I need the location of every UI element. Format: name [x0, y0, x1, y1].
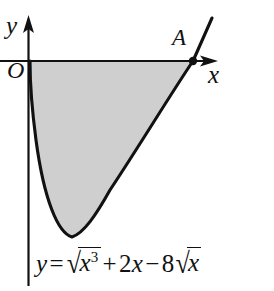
point-a-marker	[189, 57, 197, 65]
x-axis-label: x	[208, 62, 219, 87]
math-figure: y O x A y=√x3+2x−8√x	[0, 0, 274, 291]
radicand-1-variable: x	[79, 249, 90, 276]
sqrt-x-cubed: √x3	[66, 248, 101, 279]
point-a-label: A	[172, 26, 186, 49]
y-axis-label: y	[6, 13, 17, 38]
radicand-1-exponent: 3	[91, 249, 99, 265]
sqrt-x: √x	[174, 248, 201, 279]
radicand-2: x	[187, 247, 201, 277]
origin-label: O	[7, 58, 24, 82]
equation-equals: =	[47, 250, 65, 277]
curve-equation: y=√x3+2x−8√x	[36, 248, 201, 279]
term3-coefficient: 8	[162, 250, 175, 277]
equation-lhs: y	[36, 250, 47, 277]
radicand-1: x3	[78, 247, 100, 277]
equation-plus: +	[101, 250, 119, 277]
equation-minus: −	[143, 250, 161, 277]
shaded-region	[30, 61, 193, 237]
term2-coefficient: 2	[119, 250, 132, 277]
term2-variable: x	[132, 250, 143, 277]
radicand-2-variable: x	[188, 249, 199, 276]
